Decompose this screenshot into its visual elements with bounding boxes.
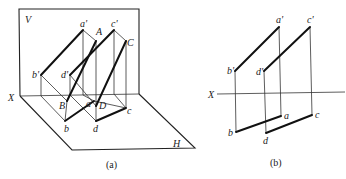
label-d-a: d [93, 123, 99, 134]
figure-b: X a' c' b' d' a c b d (b) [207, 14, 345, 169]
figure-a: V H X a' A c' C b' d' B a D c b d (a) [7, 9, 195, 171]
projection-figure: V H X a' A c' C b' d' B a D c b d (a) X [0, 0, 346, 179]
label-h: H [172, 138, 181, 149]
label-c-a: c [127, 105, 132, 116]
label-b-prime-a: b' [32, 69, 40, 80]
label-x-a: X [7, 92, 15, 103]
label-c-prime-a: c' [111, 18, 118, 29]
thick-lines-b [235, 27, 312, 133]
x-axis-a [20, 94, 139, 96]
label-c-b: c [315, 109, 320, 120]
label-C: C [127, 37, 134, 48]
label-a-b: a [284, 110, 289, 121]
caption-b: (b) [270, 157, 282, 169]
x-axis-b [217, 92, 345, 94]
label-d-b: d [263, 135, 269, 146]
thick-lines-a [41, 30, 126, 121]
label-a-prime-b: a' [276, 14, 284, 25]
label-d-prime-a: d' [61, 69, 69, 80]
label-v: V [25, 14, 33, 25]
label-a-a: a [86, 98, 91, 109]
caption-a: (a) [106, 159, 117, 171]
label-b-prime-b: b' [227, 65, 235, 76]
label-B: B [59, 100, 65, 111]
h-plane [20, 94, 195, 150]
label-x-b: X [207, 89, 215, 100]
label-c-prime-b: c' [307, 14, 314, 25]
label-b-a: b [64, 123, 69, 134]
label-d-prime-b: d' [256, 66, 264, 77]
label-b-b: b [228, 127, 233, 138]
projector-lines-b [235, 27, 312, 133]
label-a-prime-a: a' [80, 18, 88, 29]
label-D: D [98, 100, 107, 111]
label-A: A [95, 26, 103, 37]
